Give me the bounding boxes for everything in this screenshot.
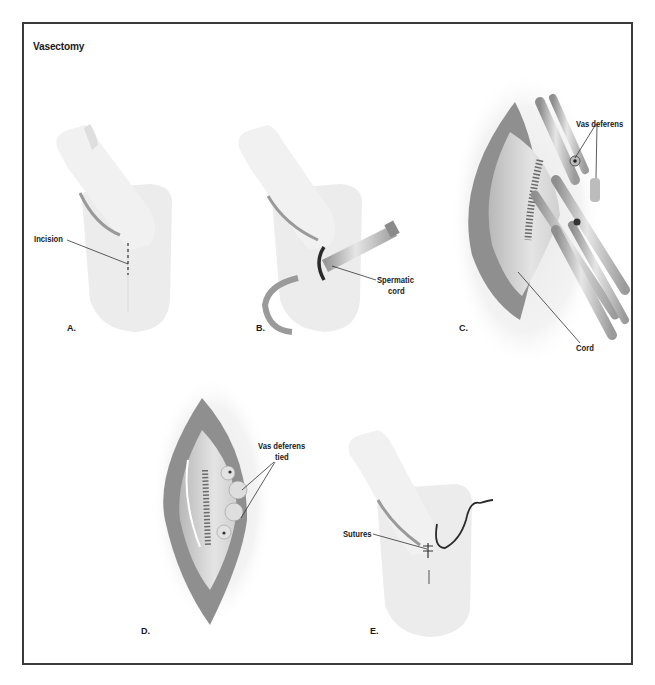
callout-spermatic-cord-line1: Spermatic <box>377 275 414 286</box>
panel-c-illustration <box>450 70 625 370</box>
callout-sutures: Sutures <box>343 529 371 540</box>
callout-vas-deferens-tied-line2: tied <box>275 452 289 463</box>
vasectomy-illustration <box>0 0 655 685</box>
panel-letter-e: E. <box>370 626 379 636</box>
callout-vas-deferens: Vas deferens <box>576 119 623 130</box>
callout-incision: Incision <box>34 234 63 245</box>
panel-letter-b: B. <box>256 323 265 333</box>
panel-letter-d: D. <box>141 626 150 636</box>
panel-b-illustration <box>238 125 399 332</box>
callout-vas-deferens-tied-line1: Vas deferens <box>258 441 305 452</box>
panel-d-illustration <box>152 375 275 625</box>
callout-cord: Cord <box>576 343 594 354</box>
panel-letter-c: C. <box>459 323 468 333</box>
callout-spermatic-cord-line2: cord <box>388 286 405 297</box>
panel-a-illustration <box>56 124 172 332</box>
panel-letter-a: A. <box>67 323 76 333</box>
